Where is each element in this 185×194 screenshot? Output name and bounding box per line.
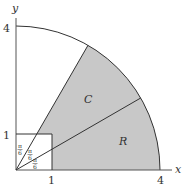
y-tick-1: 1 — [3, 129, 10, 142]
x-tick-1: 1 — [48, 174, 55, 187]
angle-label-2: π 6 — [28, 147, 33, 161]
angle-label-3: π 6 — [33, 156, 38, 170]
polar-region-diagram: y x 4 1 1 4 C R π 6 π 6 π 6 — [0, 0, 185, 194]
svg-text:6: 6 — [28, 154, 32, 161]
svg-text:π: π — [18, 142, 22, 149]
region-label-c: C — [84, 93, 93, 106]
angle-label-1: π 6 — [18, 142, 23, 156]
y-axis-label: y — [11, 2, 19, 15]
svg-text:6: 6 — [33, 163, 37, 170]
shaded-region — [37, 45, 160, 170]
y-tick-4: 4 — [3, 22, 10, 35]
x-tick-4: 4 — [157, 174, 164, 187]
svg-text:π: π — [33, 156, 37, 163]
svg-text:π: π — [28, 147, 32, 154]
region-label-r: R — [118, 135, 127, 148]
x-axis-label: x — [175, 163, 182, 176]
svg-text:6: 6 — [18, 149, 22, 156]
